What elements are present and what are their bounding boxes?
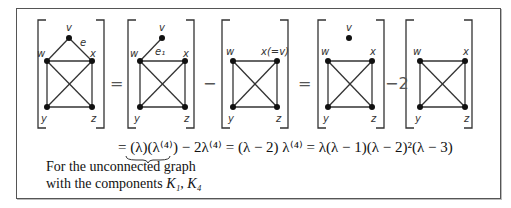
vertex-label-z: z (463, 113, 470, 124)
vertex-label-w: w (130, 48, 139, 59)
equals-operator: = (110, 74, 123, 93)
vertex-label-y: y (40, 113, 48, 124)
vertex-label-z: z (370, 113, 377, 124)
components-math: K₁, K₄ (166, 176, 201, 191)
vertex-label-v: v (159, 22, 166, 33)
vertex-label-y: y (227, 113, 235, 124)
vertex-label-x: x (182, 48, 189, 59)
vertex-label-y: y (414, 113, 422, 124)
equals-operator: = (298, 74, 311, 93)
minus-two-operator: −2 (385, 74, 409, 93)
vertex-label-z: z (183, 113, 190, 124)
annotation-line-1: For the unconnected graph (46, 158, 202, 175)
vertex-label-w: w (413, 46, 422, 57)
vertex-label-y: y (133, 113, 141, 124)
vertex-label-x: x (369, 46, 376, 57)
vertex-label-w: w (37, 48, 46, 59)
vertex-label-y: y (322, 113, 330, 124)
edge-label-e1: e₁ (155, 46, 165, 57)
underbrace-annotation: For the unconnected graph with the compo… (46, 158, 202, 192)
annotation-line-2: with the components K₁, K₄ (46, 175, 202, 192)
minus-operator: − (203, 74, 216, 93)
vertex-label-x-eq-v: x(=v) (260, 46, 289, 57)
vertex-label-w: w (321, 46, 330, 57)
vertex-label-z: z (90, 113, 97, 124)
edge-label-e: e (80, 37, 86, 48)
vertex-label-z: z (275, 113, 282, 124)
vertex-label-v: v (346, 22, 353, 33)
chromatic-polynomial-equation: = (λ)(λ⁽⁴⁾) − 2λ⁽⁴⁾ = (λ − 2) λ⁽⁴⁾ = λ(λ… (118, 138, 453, 156)
vertex-label-x: x (89, 48, 96, 59)
vertex-label-x: x (462, 46, 469, 57)
annotation-line-2-text: with the components (46, 176, 166, 191)
vertex-label-v: v (66, 22, 73, 33)
vertex-label-w: w (226, 46, 235, 57)
